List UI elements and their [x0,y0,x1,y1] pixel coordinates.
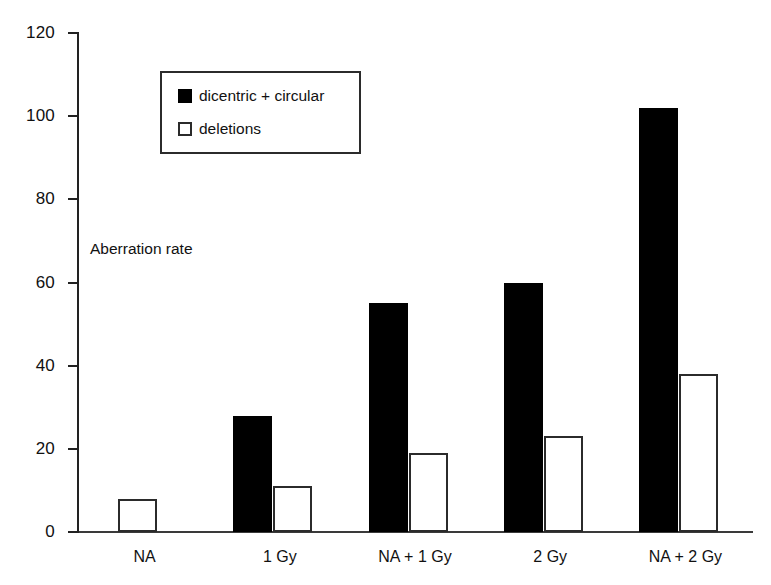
legend-entry-0: dicentric + circular [178,88,324,104]
hollow-square-icon [178,122,192,136]
filled-square-icon [178,89,192,103]
bar-filled-2 [369,303,408,532]
y-axis-tick-label: 0 [11,523,55,540]
bar-chart: 120100806040200 Aberration rate NA1 GyNA… [0,0,771,585]
y-axis-tick-label: 20 [11,440,55,457]
x-axis-label-0: NA [77,548,212,566]
x-axis-label-3: 2 Gy [483,548,618,566]
y-axis-tick-label: 100 [11,107,55,124]
legend-entry-label: dicentric + circular [199,88,324,104]
y-axis-tick-label: 40 [11,357,55,374]
legend-entry-1: deletions [178,121,261,137]
y-axis-tick-label: 60 [11,274,55,291]
y-axis-tick-label: 120 [11,24,55,41]
legend-entry-label: deletions [199,121,261,137]
bar-filled-4 [639,108,678,532]
x-axis-label-1: 1 Gy [212,548,347,566]
bar-filled-3 [504,283,543,533]
bar-hollow-4 [679,374,718,532]
bar-filled-1 [233,416,272,532]
bar-hollow-0 [118,499,157,532]
x-axis-label-4: NA + 2 Gy [618,548,753,566]
y-axis-tick-label: 80 [11,190,55,207]
x-axis-label-2: NA + 1 Gy [347,548,482,566]
bar-hollow-1 [273,486,312,532]
legend: dicentric + circulardeletions [160,71,361,154]
bar-hollow-2 [409,453,448,532]
bar-hollow-3 [544,436,583,532]
